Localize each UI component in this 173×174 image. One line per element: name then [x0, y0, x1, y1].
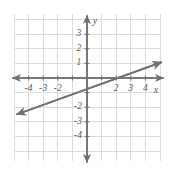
x-axis: [13, 76, 164, 81]
plotted-line: [17, 62, 162, 114]
graph-figure: -4 -3 -2 2 3 4 3 2 1 -2 -3 -4 x y: [0, 0, 173, 174]
coordinate-plane-svg: [0, 0, 173, 174]
